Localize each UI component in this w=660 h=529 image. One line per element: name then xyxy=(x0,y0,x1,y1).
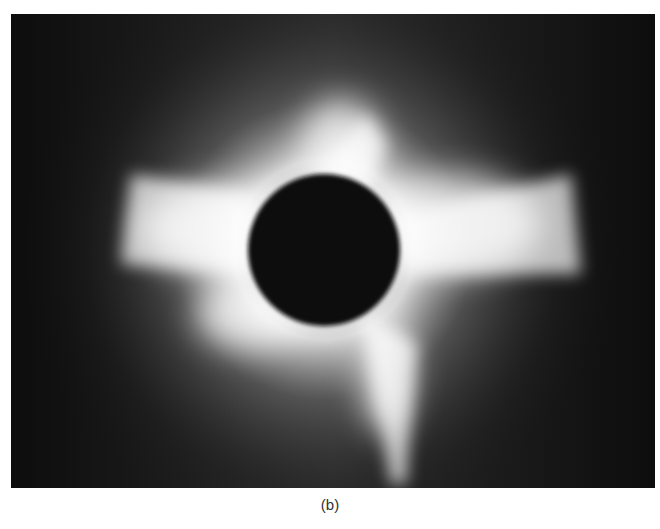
moon-disk xyxy=(248,174,400,326)
corona-illustration xyxy=(11,14,655,488)
eclipse-photo xyxy=(11,14,655,488)
figure-caption: (b) xyxy=(0,496,660,513)
